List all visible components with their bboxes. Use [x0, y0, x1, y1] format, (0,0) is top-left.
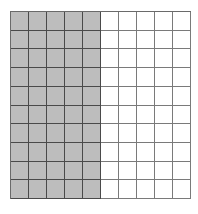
hundred-grid	[10, 11, 191, 199]
unshaded-cell	[101, 124, 119, 143]
shaded-cell	[29, 124, 47, 143]
shaded-cell	[65, 162, 83, 181]
shaded-cell	[47, 143, 65, 162]
shaded-cell	[83, 12, 101, 31]
shaded-cell	[29, 180, 47, 199]
shaded-cell	[47, 124, 65, 143]
shaded-cell	[47, 106, 65, 125]
unshaded-cell	[119, 180, 137, 199]
unshaded-cell	[155, 143, 173, 162]
shaded-cell	[47, 49, 65, 68]
unshaded-cell	[137, 12, 155, 31]
unshaded-cell	[101, 162, 119, 181]
shaded-cell	[47, 12, 65, 31]
unshaded-cell	[119, 49, 137, 68]
shaded-cell	[47, 87, 65, 106]
unshaded-cell	[155, 68, 173, 87]
shaded-cell	[83, 68, 101, 87]
shaded-cell	[65, 12, 83, 31]
unshaded-cell	[155, 180, 173, 199]
unshaded-cell	[137, 124, 155, 143]
shaded-cell	[47, 31, 65, 50]
shaded-cell	[29, 87, 47, 106]
shaded-cell	[29, 49, 47, 68]
unshaded-cell	[101, 180, 119, 199]
shaded-cell	[65, 68, 83, 87]
shaded-cell	[11, 12, 29, 31]
shaded-cell	[83, 162, 101, 181]
unshaded-cell	[173, 31, 191, 50]
unshaded-cell	[173, 180, 191, 199]
unshaded-cell	[101, 143, 119, 162]
unshaded-cell	[119, 31, 137, 50]
shaded-cell	[83, 143, 101, 162]
unshaded-cell	[173, 143, 191, 162]
unshaded-cell	[119, 87, 137, 106]
unshaded-cell	[101, 106, 119, 125]
shaded-cell	[83, 106, 101, 125]
unshaded-cell	[155, 124, 173, 143]
unshaded-cell	[119, 68, 137, 87]
unshaded-cell	[155, 49, 173, 68]
shaded-cell	[83, 124, 101, 143]
unshaded-cell	[137, 68, 155, 87]
unshaded-cell	[155, 106, 173, 125]
shaded-cell	[29, 68, 47, 87]
unshaded-cell	[155, 12, 173, 31]
unshaded-cell	[137, 106, 155, 125]
shaded-cell	[11, 180, 29, 199]
unshaded-cell	[137, 31, 155, 50]
shaded-cell	[65, 180, 83, 199]
shaded-cell	[29, 106, 47, 125]
unshaded-cell	[173, 124, 191, 143]
shaded-cell	[11, 87, 29, 106]
shaded-cell	[29, 12, 47, 31]
shaded-cell	[29, 31, 47, 50]
unshaded-cell	[101, 49, 119, 68]
shaded-cell	[11, 31, 29, 50]
unshaded-cell	[119, 162, 137, 181]
unshaded-cell	[137, 49, 155, 68]
shaded-cell	[65, 49, 83, 68]
shaded-cell	[65, 106, 83, 125]
shaded-cell	[47, 180, 65, 199]
shaded-cell	[83, 87, 101, 106]
unshaded-cell	[173, 87, 191, 106]
unshaded-cell	[101, 87, 119, 106]
shaded-cell	[11, 106, 29, 125]
shaded-cell	[47, 68, 65, 87]
shaded-cell	[83, 31, 101, 50]
unshaded-cell	[101, 68, 119, 87]
shaded-cell	[65, 87, 83, 106]
unshaded-cell	[119, 12, 137, 31]
unshaded-cell	[119, 124, 137, 143]
unshaded-cell	[119, 143, 137, 162]
shaded-cell	[65, 31, 83, 50]
unshaded-cell	[119, 106, 137, 125]
unshaded-cell	[137, 162, 155, 181]
unshaded-cell	[155, 162, 173, 181]
shaded-cell	[11, 162, 29, 181]
shaded-cell	[29, 143, 47, 162]
shaded-cell	[29, 162, 47, 181]
shaded-cell	[11, 68, 29, 87]
unshaded-cell	[173, 162, 191, 181]
unshaded-cell	[101, 31, 119, 50]
shaded-cell	[83, 49, 101, 68]
unshaded-cell	[173, 12, 191, 31]
shaded-cell	[47, 162, 65, 181]
unshaded-cell	[173, 68, 191, 87]
shaded-cell	[65, 143, 83, 162]
unshaded-cell	[173, 106, 191, 125]
unshaded-cell	[155, 87, 173, 106]
shaded-cell	[11, 124, 29, 143]
shaded-cell	[11, 143, 29, 162]
unshaded-cell	[155, 31, 173, 50]
unshaded-cell	[173, 49, 191, 68]
unshaded-cell	[137, 143, 155, 162]
shaded-cell	[11, 49, 29, 68]
unshaded-cell	[101, 12, 119, 31]
shaded-cell	[83, 180, 101, 199]
shaded-cell	[65, 124, 83, 143]
unshaded-cell	[137, 87, 155, 106]
